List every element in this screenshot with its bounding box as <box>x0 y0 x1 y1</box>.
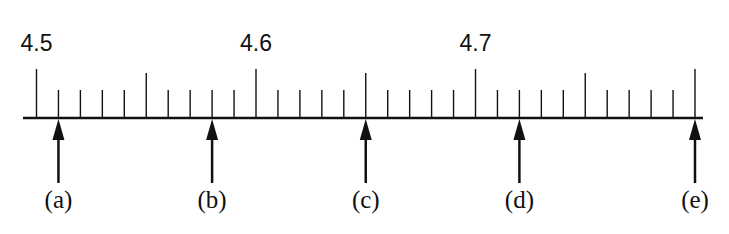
point-label-a: (a) <box>45 187 73 212</box>
point-label-e: (e) <box>681 187 709 212</box>
arrow-head-icon <box>52 119 64 140</box>
number-line-diagram: 4.5 4.6 4.7 (a) (b) (c) (d) (e) <box>0 0 729 234</box>
major-label-4-6: 4.6 <box>240 32 272 55</box>
arrow-head-icon <box>689 119 701 140</box>
arrow-head-icon <box>513 119 525 140</box>
major-label-4-7: 4.7 <box>460 32 492 55</box>
point-label-b: (b) <box>198 187 227 212</box>
point-label-d: (d) <box>505 187 534 212</box>
arrow-head-icon <box>206 119 218 140</box>
major-label-4-5: 4.5 <box>21 32 53 55</box>
point-label-c: (c) <box>352 187 380 212</box>
arrow-head-icon <box>360 119 372 140</box>
